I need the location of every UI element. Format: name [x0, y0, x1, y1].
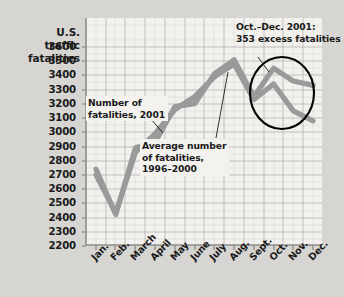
annotation-fatalities-2001: Number of fatalities, 2001: [86, 96, 168, 121]
annotation-excess-line-1: Oct.–Dec. 2001:: [236, 21, 341, 33]
y-tick-label-2200: 2200: [36, 240, 76, 251]
y-tick-label-2500: 2500: [36, 197, 76, 208]
annotation-fatalities-2001-line-1: Number of: [88, 97, 165, 109]
y-tick-label-3600: 3600: [36, 41, 76, 52]
annotation-excess-fatalities: Oct.–Dec. 2001: 353 excess fatalities: [234, 20, 344, 45]
y-tick-label-3200: 3200: [36, 98, 76, 109]
y-tick-label-2600: 2600: [36, 183, 76, 194]
annotation-fatalities-2001-line-2: fatalities, 2001: [88, 109, 165, 121]
y-tick-label-3500: 3500: [36, 55, 76, 66]
y-axis-title-line-1: U.S.: [2, 26, 80, 39]
y-tick-label-3400: 3400: [36, 69, 76, 80]
y-tick-label-2900: 2900: [36, 141, 76, 152]
annotation-average-1996-2000: Average number of fatalities, 1996–2000: [140, 139, 229, 176]
y-tick-label-2800: 2800: [36, 155, 76, 166]
annotation-average-line-2: of fatalities,: [142, 152, 226, 164]
y-tick-label-3100: 3100: [36, 112, 76, 123]
y-tick-label-2700: 2700: [36, 169, 76, 180]
y-tick-label-3000: 3000: [36, 126, 76, 137]
annotation-excess-line-2: 353 excess fatalities: [236, 33, 341, 45]
y-tick-label-3300: 3300: [36, 84, 76, 95]
annotation-average-line-3: 1996–2000: [142, 163, 226, 175]
annotation-average-line-1: Average number: [142, 140, 226, 152]
y-tick-label-2300: 2300: [36, 226, 76, 237]
y-tick-label-2400: 2400: [36, 212, 76, 223]
